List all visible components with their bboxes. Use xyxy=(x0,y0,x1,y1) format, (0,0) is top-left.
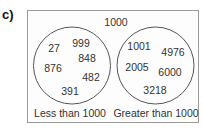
set-member: 2005 xyxy=(125,62,148,73)
universal-element: 1000 xyxy=(104,17,127,28)
set-label-greater-than-1000: Greater than 1000 xyxy=(113,108,198,119)
set-member: 6000 xyxy=(158,67,181,78)
set-member: 482 xyxy=(82,72,100,83)
set-member: 3218 xyxy=(143,85,166,96)
set-member: 1001 xyxy=(127,41,150,52)
set-member: 391 xyxy=(61,86,79,97)
set-member: 999 xyxy=(72,38,90,49)
set-member: 27 xyxy=(48,43,60,54)
set-member: 876 xyxy=(44,63,62,74)
set-label-less-than-1000: Less than 1000 xyxy=(34,108,106,119)
set-member: 848 xyxy=(78,53,96,64)
set-member: 4976 xyxy=(161,47,184,58)
